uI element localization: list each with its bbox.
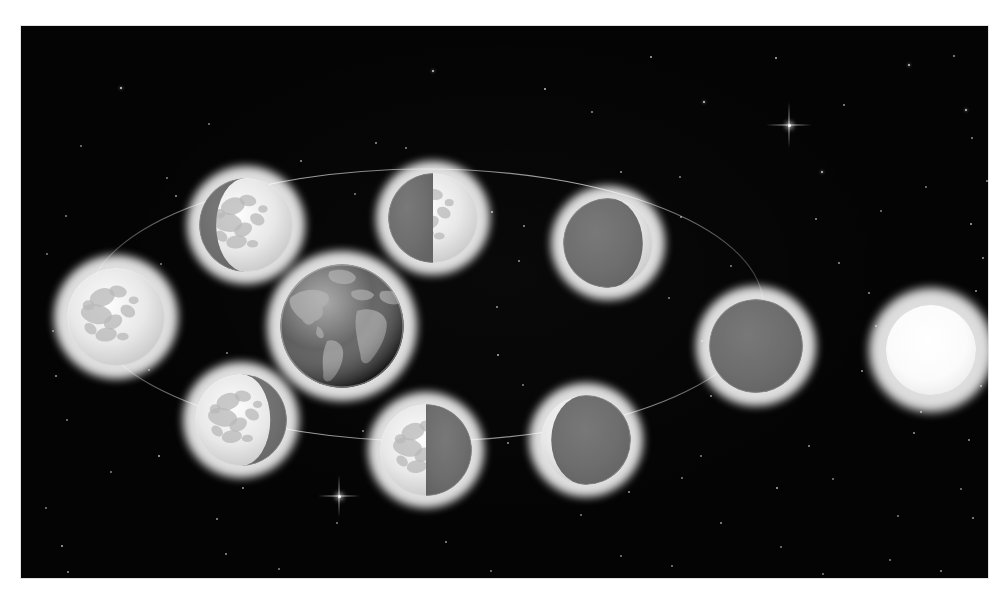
waxing-crescent-moon-disc (541, 395, 631, 485)
star (680, 216, 682, 218)
star (354, 193, 356, 195)
star (225, 553, 227, 555)
star (965, 109, 967, 111)
star (175, 195, 177, 197)
star (208, 123, 210, 125)
waning-crescent-moon-disc (563, 198, 653, 288)
waning-crescent-moon (551, 186, 665, 300)
star (166, 177, 168, 179)
star (650, 56, 652, 58)
star (242, 487, 244, 489)
star (821, 171, 823, 173)
star (375, 142, 377, 144)
star (278, 568, 280, 570)
last-quarter-moon-disc (388, 173, 478, 263)
earth-disc (280, 264, 404, 388)
moon-phases-illustration (0, 0, 1003, 599)
star (544, 88, 546, 90)
star (982, 257, 984, 259)
star (822, 573, 824, 575)
new-moon-disc (709, 299, 803, 393)
star (889, 559, 891, 561)
star (775, 57, 777, 59)
full-moon-disc (67, 268, 165, 366)
star (216, 518, 218, 520)
star (405, 147, 407, 149)
star (913, 432, 915, 434)
star (522, 384, 524, 386)
star (668, 297, 670, 299)
star (972, 517, 974, 519)
star (776, 487, 778, 489)
star (880, 210, 882, 212)
star (432, 70, 434, 72)
star (908, 64, 910, 66)
star (720, 522, 722, 524)
star (80, 145, 82, 147)
star (968, 439, 970, 441)
star (110, 471, 112, 473)
star (362, 430, 364, 432)
star (46, 253, 48, 255)
star (591, 111, 593, 113)
star (45, 507, 47, 509)
star (226, 352, 228, 354)
star (445, 541, 447, 543)
earth (267, 251, 417, 401)
star (986, 180, 988, 182)
star (971, 137, 973, 139)
star (158, 455, 160, 457)
first-quarter-moon-disc (380, 404, 472, 496)
star (496, 306, 498, 308)
star (861, 370, 863, 372)
new-moon (696, 286, 816, 406)
star (679, 176, 681, 178)
first-quarter-moon (368, 392, 484, 508)
star (620, 171, 622, 173)
star (730, 265, 732, 267)
star (620, 555, 622, 557)
star (843, 104, 845, 106)
star (497, 354, 499, 356)
star (703, 101, 705, 103)
star (67, 571, 69, 573)
star (66, 419, 68, 421)
full-moon (54, 255, 178, 379)
star (491, 211, 493, 213)
star (832, 478, 834, 480)
waxing-crescent-moon (529, 383, 643, 497)
star (507, 442, 509, 444)
sun-disc (886, 305, 976, 395)
star (671, 565, 673, 567)
star (953, 55, 955, 57)
star (897, 515, 899, 517)
star (61, 545, 63, 547)
star (681, 477, 683, 479)
star (523, 225, 525, 227)
sparkle-upper-right (766, 102, 812, 148)
star (808, 445, 810, 447)
star (940, 570, 942, 572)
sparkle-lower-left (318, 475, 360, 517)
star (336, 522, 338, 524)
star (120, 87, 123, 90)
sun (869, 288, 988, 412)
night-sky-plate (21, 26, 988, 578)
star (925, 186, 927, 188)
star (518, 260, 520, 262)
star (780, 546, 782, 548)
star (838, 262, 840, 264)
star (815, 218, 817, 220)
star (970, 223, 972, 225)
star (700, 455, 702, 457)
star (65, 215, 67, 217)
star (490, 570, 492, 572)
star (300, 160, 302, 162)
star (960, 488, 962, 490)
star (580, 514, 582, 516)
